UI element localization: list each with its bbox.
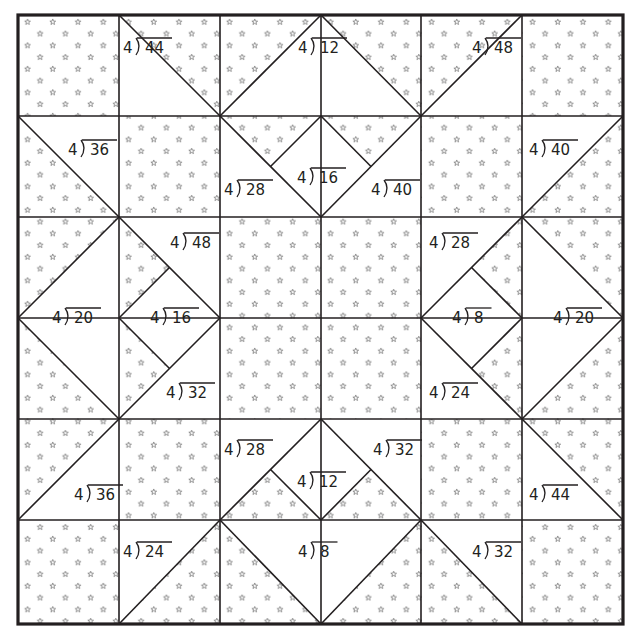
dividend: 12 (319, 473, 338, 491)
dividend: 16 (319, 169, 338, 187)
divisor: 4 (123, 39, 133, 57)
divisor: 4 (297, 473, 307, 491)
dividend: 40 (551, 141, 570, 159)
dividend: 8 (320, 543, 330, 561)
dividend: 16 (172, 309, 191, 327)
dividend: 36 (90, 141, 109, 159)
divisor: 4 (472, 543, 482, 561)
dividend: 20 (575, 309, 594, 327)
divisor: 4 (68, 141, 78, 159)
dividend: 24 (451, 384, 470, 402)
dividend: 44 (145, 39, 164, 57)
divisor: 4 (297, 169, 307, 187)
divisor: 4 (150, 309, 160, 327)
dividend: 24 (145, 543, 164, 561)
dividend: 20 (74, 309, 93, 327)
dividend: 28 (246, 181, 265, 199)
divisor: 4 (429, 384, 439, 402)
divisor: 4 (74, 486, 84, 504)
dividend: 12 (320, 39, 339, 57)
dividend: 40 (393, 181, 412, 199)
quilt-worksheet: 4444124484364164284404404484204164324284… (0, 0, 642, 641)
dividend: 48 (494, 39, 513, 57)
divisor: 4 (298, 39, 308, 57)
dividend: 28 (451, 234, 470, 252)
divisor: 4 (166, 384, 176, 402)
dividend: 32 (188, 384, 207, 402)
divisor: 4 (224, 181, 234, 199)
dividend: 8 (474, 309, 484, 327)
divisor: 4 (429, 234, 439, 252)
dividend: 28 (246, 441, 265, 459)
divisor: 4 (553, 309, 563, 327)
dividend: 48 (192, 234, 211, 252)
divisor: 4 (452, 309, 462, 327)
divisor: 4 (52, 309, 62, 327)
dividend: 32 (395, 441, 414, 459)
dividend: 36 (96, 486, 115, 504)
dividend: 32 (494, 543, 513, 561)
divisor: 4 (170, 234, 180, 252)
divisor: 4 (371, 181, 381, 199)
divisor: 4 (224, 441, 234, 459)
divisor: 4 (472, 39, 482, 57)
divisor: 4 (123, 543, 133, 561)
divisor: 4 (298, 543, 308, 561)
divisor: 4 (373, 441, 383, 459)
divisor: 4 (529, 141, 539, 159)
divisor: 4 (529, 486, 539, 504)
dividend: 44 (551, 486, 570, 504)
